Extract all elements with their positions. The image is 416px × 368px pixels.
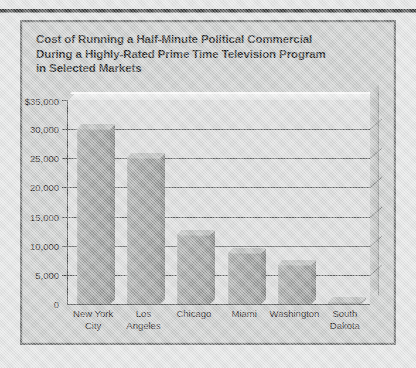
bar — [228, 253, 261, 304]
x-axis-line — [68, 304, 370, 305]
y-axis-tick-label: 25,000 — [30, 153, 59, 164]
bar-side-face — [261, 248, 266, 304]
y-axis-tick-label: 30,000 — [30, 124, 59, 135]
bar — [278, 265, 311, 304]
chart-title: Cost of Running a Half-Minute Political … — [36, 32, 384, 76]
bar-top-face — [228, 248, 266, 253]
y-axis-tick — [62, 187, 68, 188]
bar-side-face — [160, 154, 165, 304]
bar — [77, 129, 110, 304]
bar — [177, 235, 210, 304]
header-rule-thin — [0, 12, 416, 13]
y-axis-tick-label: 20,000 — [30, 182, 59, 193]
plot-area: 05,00010,00015,00020,00025,00030,000$35,… — [68, 100, 370, 304]
x-axis-label: South Dakota — [316, 308, 374, 331]
y-axis-tick — [62, 217, 68, 218]
bar-side-face — [110, 125, 115, 304]
y-axis-tick-label: 5,000 — [35, 269, 59, 280]
bar-top-face — [127, 153, 165, 158]
y-axis-tick — [62, 275, 68, 276]
bar-top-face — [328, 297, 366, 302]
y-axis-tick-label: 10,000 — [30, 240, 59, 251]
chart-title-line-2: During a Highly-Rated Prime Time Televis… — [36, 47, 384, 62]
bar — [127, 158, 160, 304]
plot-wall-top-highlight — [70, 92, 372, 94]
bar-top-face — [177, 230, 215, 235]
chart-title-line-1: Cost of Running a Half-Minute Political … — [36, 32, 384, 47]
y-axis-tick — [62, 100, 68, 101]
y-axis-tick-label: $35,000 — [25, 96, 59, 107]
bar-side-face — [210, 231, 215, 304]
y-axis-tick — [62, 158, 68, 159]
y-axis-tick — [62, 129, 68, 130]
y-axis-tick-label: 0 — [54, 299, 59, 310]
chart-title-line-3: in Selected Markets — [36, 61, 384, 76]
plot-face — [68, 100, 370, 304]
bar-side-face — [311, 261, 316, 304]
y-axis-tick-label: 15,000 — [30, 211, 59, 222]
bar-top-face — [77, 124, 115, 129]
bar-top-face — [278, 260, 316, 265]
y-axis-tick — [62, 246, 68, 247]
